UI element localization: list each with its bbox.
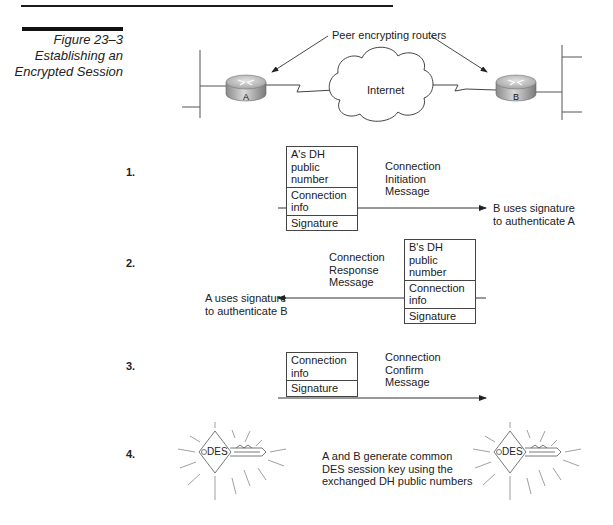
step4-number: 4. — [126, 448, 135, 460]
step2-message-label: Connection Response Message — [329, 251, 385, 289]
step1-field-conn: Connection info — [287, 187, 357, 215]
step2-number: 2. — [126, 257, 135, 269]
router-a-label: A — [243, 92, 249, 102]
step3-msg-l1: Connection — [385, 351, 441, 364]
step2-msg-l3: Message — [329, 276, 385, 289]
step2-field-dh: B's DH public number — [405, 240, 475, 280]
des-key-a-icon — [178, 422, 286, 500]
lan-segment-right — [536, 45, 582, 120]
step3-message-label: Connection Confirm Message — [385, 351, 441, 389]
step1-field-dh: A's DH public number — [287, 147, 357, 187]
step3-field-conn: Connection info — [287, 353, 357, 380]
step4-description: A and B generate common DES session key … — [322, 450, 472, 488]
wan-link-a — [266, 85, 336, 93]
step1-note-l2: to authenticate A — [493, 215, 575, 228]
step3-message-box: Connection info Signature — [286, 352, 358, 397]
step1-msg-l3: Message — [385, 185, 441, 198]
des-key-b-icon — [473, 422, 581, 500]
step3-msg-l3: Message — [385, 376, 441, 389]
des-key-b-label: DES — [502, 446, 523, 459]
pointer-arrow-a — [272, 36, 328, 72]
step1-msg-l2: Initiation — [385, 173, 441, 186]
wan-link-b — [425, 85, 496, 91]
step4-desc-l2: DES session key using the — [322, 463, 472, 476]
step3-field-sig: Signature — [287, 380, 357, 396]
step1-note: B uses signature to authenticate A — [493, 202, 575, 227]
step4-desc-l1: A and B generate common — [322, 450, 472, 463]
step2-message-box: B's DH public number Connection info Sig… — [404, 239, 476, 324]
step2-note-l1: A uses signature — [205, 292, 288, 305]
step1-number: 1. — [126, 166, 135, 178]
step1-note-l1: B uses signature — [493, 202, 575, 215]
step1-message-box: A's DH public number Connection info Sig… — [286, 146, 358, 231]
step3-msg-l2: Confirm — [385, 364, 441, 377]
internet-label: Internet — [367, 84, 404, 97]
router-b-label: B — [513, 92, 519, 102]
step1-field-sig: Signature — [287, 215, 357, 231]
peer-routers-label: Peer encrypting routers — [332, 29, 446, 42]
step3-number: 3. — [126, 360, 135, 372]
step1-message-label: Connection Initiation Message — [385, 160, 441, 198]
step4-desc-l3: exchanged DH public numbers — [322, 475, 472, 488]
step2-note: A uses signature to authenticate B — [205, 292, 288, 317]
step1-msg-l1: Connection — [385, 160, 441, 173]
step2-note-l2: to authenticate B — [205, 305, 288, 318]
step2-field-sig: Signature — [405, 308, 475, 324]
step2-msg-l2: Response — [329, 264, 385, 277]
lan-segment-left — [182, 50, 228, 118]
des-key-a-label: DES — [207, 446, 228, 459]
step2-msg-l1: Connection — [329, 251, 385, 264]
step2-field-conn: Connection info — [405, 280, 475, 308]
